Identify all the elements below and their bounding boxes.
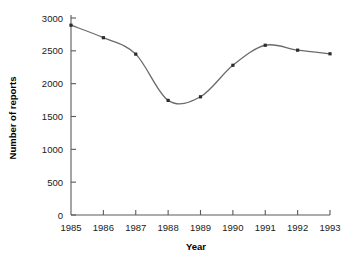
data-point-marker bbox=[167, 99, 170, 102]
x-tick-label: 1991 bbox=[255, 222, 276, 233]
x-tick-label: 1990 bbox=[222, 222, 243, 233]
y-axis-title: Number of reports bbox=[7, 77, 18, 160]
data-point-marker bbox=[199, 95, 202, 98]
x-tick-label: 1987 bbox=[125, 222, 146, 233]
y-tick-label: 1500 bbox=[42, 111, 63, 122]
chart-canvas: 050010001500200025003000 198519861987198… bbox=[0, 0, 354, 261]
x-tick-label: 1988 bbox=[158, 222, 179, 233]
y-tick-label: 0 bbox=[58, 210, 63, 221]
x-tick-label: 1993 bbox=[319, 222, 340, 233]
x-axis-title: Year bbox=[186, 241, 206, 252]
x-axis-tick-labels: 198519861987198819891990199119921993 bbox=[60, 222, 340, 233]
y-tick-label: 500 bbox=[47, 177, 63, 188]
x-tick-label: 1989 bbox=[190, 222, 211, 233]
x-tick-label: 1992 bbox=[287, 222, 308, 233]
data-point-marker bbox=[231, 64, 234, 67]
data-point-marker bbox=[102, 36, 105, 39]
data-point-marker bbox=[296, 49, 299, 52]
y-tick-label: 2000 bbox=[42, 78, 63, 89]
x-tick-label: 1985 bbox=[60, 222, 81, 233]
data-point-marker bbox=[328, 52, 331, 55]
y-tick-label: 3000 bbox=[42, 13, 63, 24]
y-tick-label: 1000 bbox=[42, 144, 63, 155]
line-chart: 050010001500200025003000 198519861987198… bbox=[0, 0, 354, 261]
data-point-marker bbox=[264, 44, 267, 47]
data-point-marker bbox=[69, 24, 72, 27]
data-point-marker bbox=[134, 53, 137, 56]
x-tick-label: 1986 bbox=[93, 222, 114, 233]
y-tick-label: 2500 bbox=[42, 45, 63, 56]
